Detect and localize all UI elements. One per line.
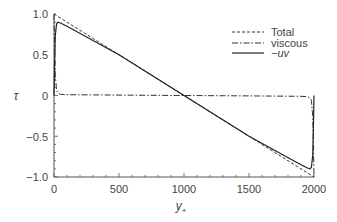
y-tick-label: 0.5	[33, 49, 48, 61]
x-tick-label: 0	[51, 183, 57, 195]
y-tick-label: 0	[42, 90, 48, 102]
chart-canvas: 1.0 0.5 0 −0.5 −1.0 0 500 1000 1500 2000…	[0, 0, 337, 222]
x-axis-label: y+	[175, 199, 187, 215]
legend-uv-label: −uv	[271, 47, 291, 59]
x-tick-label: 500	[110, 183, 128, 195]
y-tick-label: −1.0	[26, 171, 48, 183]
legend: Total viscous −uv	[232, 26, 308, 59]
x-tick-label: 2000	[302, 183, 326, 195]
y-tick-label: −0.5	[26, 131, 48, 143]
y-tick-label: 1.0	[33, 8, 48, 20]
x-tick-label: 1000	[172, 183, 196, 195]
y-axis-label: τ	[14, 89, 20, 103]
x-tick-label: 1500	[237, 183, 261, 195]
x-ticks	[54, 173, 314, 177]
